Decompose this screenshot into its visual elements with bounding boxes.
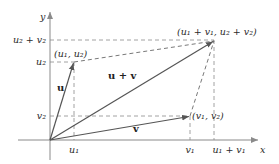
y-axis-label: y bbox=[39, 11, 46, 22]
y-tick-u2-plus-v2: u₂ + v₂ bbox=[13, 34, 46, 45]
vector-sum-label: u + v bbox=[108, 70, 138, 81]
x-axis-label: x bbox=[260, 144, 266, 155]
parallelogram-right bbox=[190, 41, 214, 116]
y-tick-u2: u₂ bbox=[36, 56, 46, 67]
y-tick-v2: v₂ bbox=[37, 110, 46, 121]
vector-addition-diagram: y x u₂ + v₂ u₂ v₂ u₁ v₁ u₁ + v₁ (u₁, u₂)… bbox=[0, 0, 279, 164]
x-tick-u1-plus-v1: u₁ + v₁ bbox=[212, 144, 245, 155]
point-sum-label: (u₁ + v₁, u₂ + v₂) bbox=[177, 26, 257, 37]
x-tick-v1: v₁ bbox=[185, 144, 194, 155]
point-v-label: (v₁, v₂) bbox=[192, 110, 224, 121]
vector-u-label: u bbox=[57, 82, 64, 93]
parallelogram-top bbox=[74, 41, 214, 62]
point-u-label: (u₁, u₂) bbox=[54, 48, 88, 59]
vector-v bbox=[50, 117, 189, 141]
vector-v-label: v bbox=[132, 123, 140, 134]
x-tick-u1: u₁ bbox=[69, 144, 79, 155]
